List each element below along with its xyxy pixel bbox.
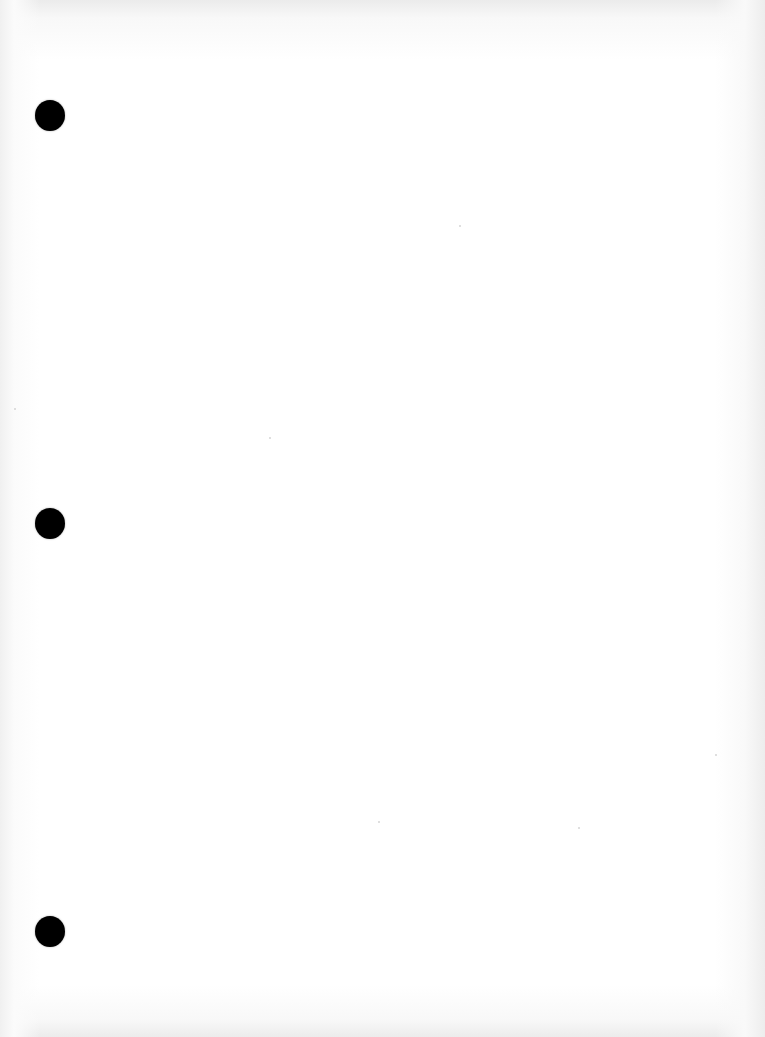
scan-dust-speck (14, 408, 16, 410)
scan-dust-speck (378, 821, 380, 823)
scan-dust-speck (715, 754, 717, 756)
punch-hole-middle (35, 508, 65, 539)
scan-dust-speck (269, 437, 271, 439)
scan-dust-speck (459, 225, 461, 227)
punch-hole-top (35, 100, 65, 131)
scanned-blank-page (0, 0, 765, 1037)
scan-dust-speck (578, 827, 580, 829)
punch-hole-bottom (35, 916, 65, 947)
